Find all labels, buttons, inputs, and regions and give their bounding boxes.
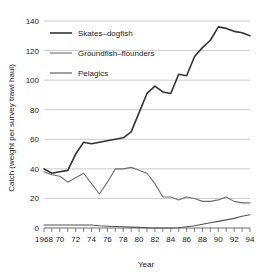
x-tick-label: 80 [135,235,144,244]
x-tick-label: 76 [103,235,112,244]
x-axis-tick-labels: 196870727476788082848688909294 [35,235,255,244]
x-axis-title: Year [138,260,155,269]
legend-label: Skates–dogfish [78,29,133,38]
x-tick-label: 74 [87,235,96,244]
x-tick-label: 1968 [35,235,53,244]
y-tick-label: 0 [35,224,40,233]
x-tick-label: 78 [119,235,128,244]
y-axis-title: Catch (weight per survey trawl haul) [7,64,16,192]
y-tick-label: 140 [26,17,40,26]
y-tick-label: 100 [26,76,40,85]
x-tick-label: 92 [230,235,239,244]
x-tick-label: 90 [214,235,223,244]
series-line [44,215,250,228]
x-tick-label: 88 [198,235,207,244]
x-axis-ticks [44,228,250,232]
y-axis-tick-labels: 020406080100120140 [26,17,40,233]
x-tick-label: 72 [71,235,80,244]
series-line [44,167,250,202]
y-tick-label: 120 [26,47,40,56]
x-tick-label: 94 [246,235,255,244]
line-chart: 020406080100120140 196870727476788082848… [0,0,263,272]
y-tick-label: 20 [30,194,39,203]
legend-label: Pelagics [78,69,108,78]
y-tick-label: 60 [30,135,39,144]
x-tick-label: 82 [150,235,159,244]
chart-container: 020406080100120140 196870727476788082848… [0,0,263,272]
chart-legend: Skates–dogfishGroundfish–floundersPelagi… [50,29,155,78]
x-tick-label: 70 [55,235,64,244]
y-tick-label: 40 [30,165,39,174]
x-tick-label: 84 [166,235,175,244]
x-tick-label: 86 [182,235,191,244]
y-tick-label: 80 [30,106,39,115]
legend-label: Groundfish–flounders [78,49,155,58]
